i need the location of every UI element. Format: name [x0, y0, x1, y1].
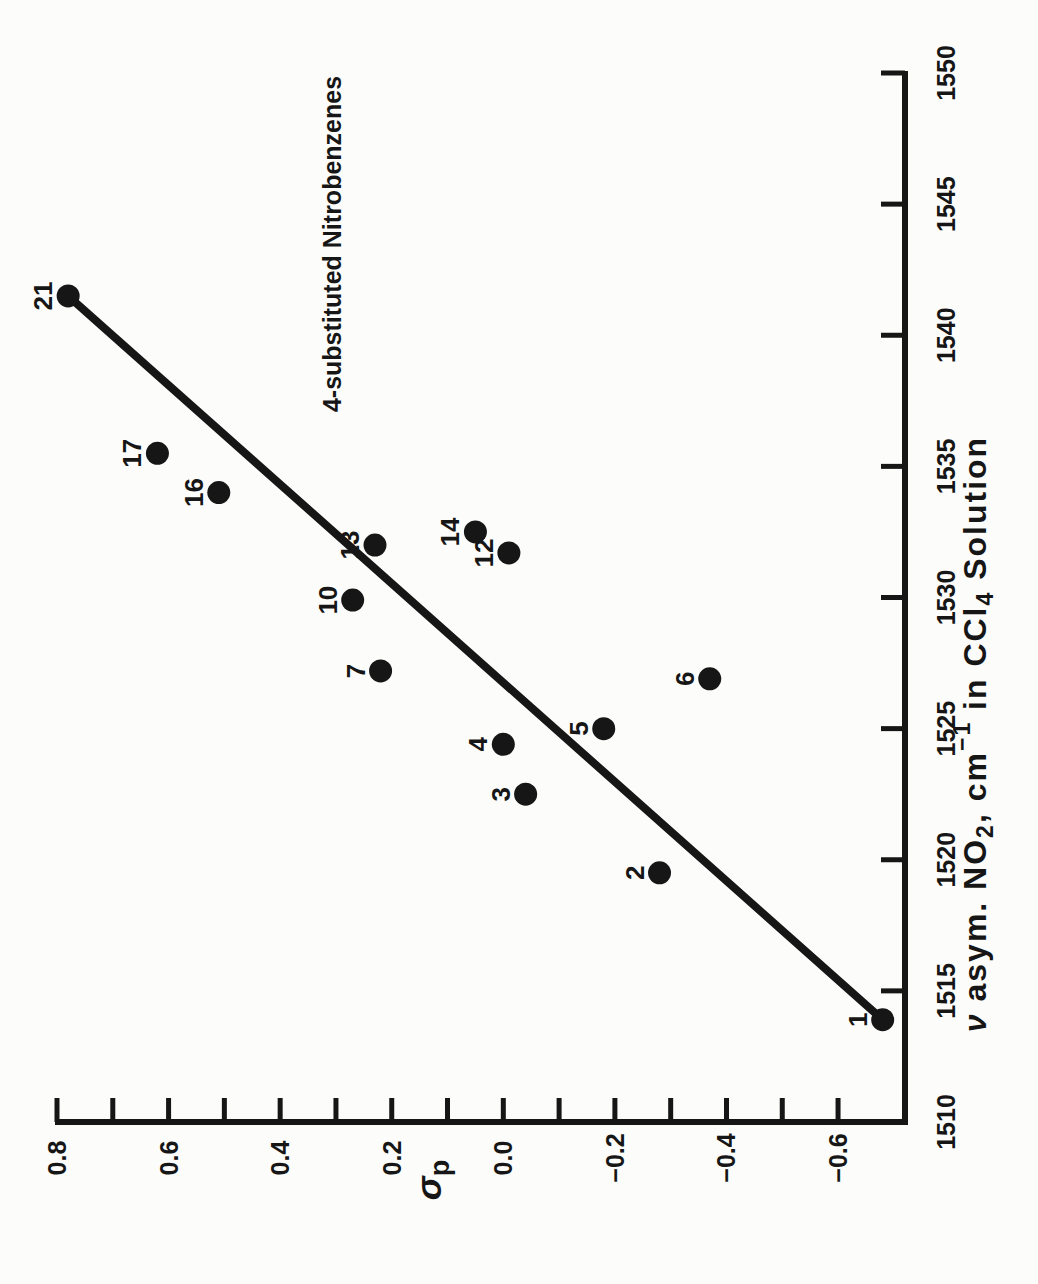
data-point — [369, 659, 392, 682]
x-tick-label: 1510 — [932, 1094, 960, 1150]
data-point — [364, 534, 387, 557]
x-axis-title: ν asym. NO2, cm−1 in CCl4 Solution — [949, 436, 998, 1032]
data-point-label: 6 — [670, 672, 700, 686]
data-point — [648, 861, 671, 884]
data-point-label: 21 — [28, 281, 58, 310]
x-tick-label: 1520 — [932, 832, 960, 888]
data-point — [464, 520, 487, 543]
data-point — [514, 783, 537, 806]
data-point — [341, 589, 364, 612]
data-point-label: 16 — [179, 478, 209, 507]
y-axis-title: σp — [408, 1160, 456, 1200]
scatter-chart: 1510151515201525153015351540154515500.80… — [0, 0, 1038, 1284]
data-point — [592, 717, 615, 740]
data-point — [492, 733, 515, 756]
y-tick-label: 0.0 — [489, 1141, 517, 1176]
y-tick-label: 0.8 — [43, 1141, 71, 1176]
data-point-label: 17 — [117, 439, 147, 468]
data-point-label: 7 — [341, 664, 371, 678]
data-point — [497, 541, 520, 564]
data-point-label: 13 — [335, 531, 365, 560]
y-tick-label: 0.6 — [155, 1141, 183, 1176]
x-tick-label: 1550 — [932, 45, 960, 101]
data-point-label: 5 — [564, 721, 594, 735]
x-tick-label: 1545 — [932, 176, 960, 232]
data-point — [871, 1008, 894, 1031]
annotation: 4-substituted Nitrobenzenes — [318, 76, 346, 412]
data-point — [57, 284, 80, 307]
data-point-label: 10 — [313, 586, 343, 615]
fit-line — [68, 296, 883, 1020]
data-point-label: 14 — [435, 517, 465, 546]
y-tick-label: −0.2 — [601, 1133, 629, 1182]
y-tick-label: −0.4 — [712, 1133, 740, 1182]
data-point — [146, 442, 169, 465]
data-point-label: 2 — [620, 866, 650, 880]
x-tick-label: 1540 — [932, 307, 960, 363]
y-tick-label: −0.6 — [824, 1133, 852, 1182]
data-point-label: 3 — [486, 787, 516, 801]
data-point — [698, 667, 721, 690]
y-tick-label: 0.2 — [378, 1141, 406, 1176]
data-point-label: 1 — [843, 1012, 873, 1026]
y-tick-label: 0.4 — [266, 1141, 294, 1176]
scanned-figure-page: 1510151515201525153015351540154515500.80… — [0, 0, 1038, 1284]
data-point — [207, 481, 230, 504]
x-tick-label: 1515 — [932, 963, 960, 1019]
x-tick-label: 1535 — [932, 438, 960, 494]
x-tick-label: 1530 — [932, 570, 960, 626]
data-point-label: 4 — [463, 737, 493, 752]
